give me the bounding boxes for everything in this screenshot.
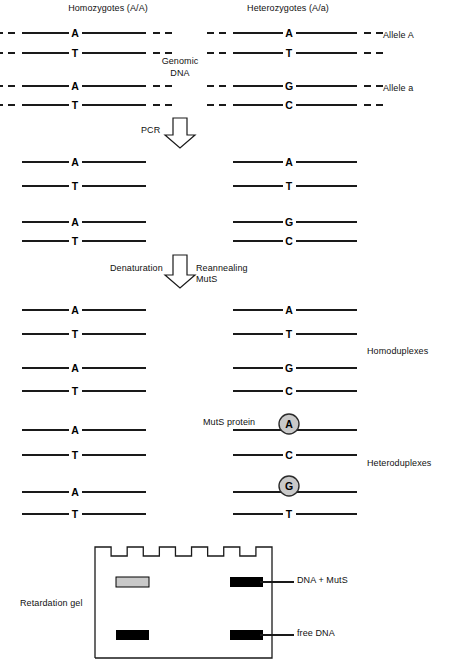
duplex-strand-left-A-2-base: A — [71, 362, 79, 374]
gel-band-right-top — [230, 577, 263, 587]
duplex-strand-left-T-1-base: T — [72, 328, 79, 340]
duplex-strand-left-T-7-base: T — [72, 508, 79, 520]
duplex-strand-right-A-12-base: A — [285, 418, 293, 430]
denaturation-reannealing-arrow — [165, 255, 195, 288]
duplex-strand-right-T-9-base: T — [286, 328, 293, 340]
duplex-strand-left-A-6-base: A — [71, 486, 79, 498]
diagram-vector-layer: ATATATGCATATATGCATATATATATGCACGT — [0, 0, 450, 668]
gel-band-right-bottom — [230, 630, 263, 640]
duplex-strand-right-C-13-base: C — [285, 449, 293, 461]
duplex-strand-right-T-15-base: T — [286, 508, 293, 520]
pcr-strand-left-T-3-base: T — [72, 235, 79, 247]
duplex-strand-right-C-11-base: C — [285, 385, 293, 397]
genomic-strand-right-A-4-base: A — [285, 27, 293, 39]
duplex-strand-left-T-3-base: T — [72, 385, 79, 397]
pcr-strand-left-T-1-base: T — [72, 180, 79, 192]
muts-assay-diagram: Homozygotes (A/A) Heterozygotes (A/a) Ge… — [0, 0, 450, 668]
pcr-strand-right-G-6-base: G — [285, 216, 293, 228]
genomic-strand-left-A-0-base: A — [71, 27, 79, 39]
genomic-strand-right-C-7-base: C — [285, 99, 293, 111]
pcr-strand-left-A-0-base: A — [71, 156, 79, 168]
genomic-strand-right-T-5-base: T — [286, 47, 293, 59]
pcr-arrow — [165, 118, 195, 148]
duplex-strand-left-T-5-base: T — [72, 449, 79, 461]
duplex-strand-right-G-10-base: G — [285, 362, 293, 374]
genomic-strand-left-T-3-base: T — [72, 99, 79, 111]
duplex-strand-right-A-8-base: A — [285, 304, 293, 316]
gel-band-left-bottom — [116, 630, 149, 640]
genomic-strand-right-G-6-base: G — [285, 80, 293, 92]
genomic-strand-left-T-1-base: T — [72, 47, 79, 59]
duplex-strand-left-A-0-base: A — [71, 304, 79, 316]
pcr-strand-right-C-7-base: C — [285, 235, 293, 247]
pcr-strand-left-A-2-base: A — [71, 216, 79, 228]
genomic-strand-left-A-2-base: A — [71, 80, 79, 92]
pcr-strand-right-T-5-base: T — [286, 180, 293, 192]
duplex-strand-left-A-4-base: A — [71, 424, 79, 436]
retardation-gel-outline — [95, 547, 272, 658]
pcr-strand-right-A-4-base: A — [285, 156, 293, 168]
gel-band-left-top — [116, 577, 149, 587]
duplex-strand-right-G-14-base: G — [285, 480, 293, 492]
